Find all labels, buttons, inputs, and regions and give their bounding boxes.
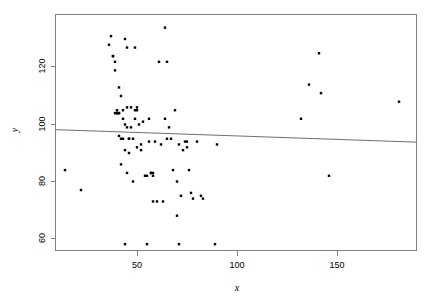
data-point (134, 118, 136, 120)
y-tick-label-100: 100 (37, 116, 47, 131)
plot-canvas: 60 80 100 120 50 100 150 x y (0, 0, 437, 300)
x-tick-label-100: 100 (229, 260, 244, 270)
data-point (156, 200, 158, 202)
data-point (320, 92, 322, 94)
data-point (146, 175, 148, 177)
data-point (140, 143, 142, 145)
data-point (186, 140, 188, 142)
data-point (164, 26, 166, 28)
data-point (174, 109, 176, 111)
data-point (186, 146, 188, 148)
data-point (318, 52, 320, 54)
data-point (124, 149, 126, 151)
data-point (136, 146, 138, 148)
y-axis-ticks (51, 67, 56, 239)
data-point (176, 215, 178, 217)
data-point (168, 126, 170, 128)
data-point (308, 83, 310, 85)
y-axis-tick-labels: 60 80 100 120 (37, 58, 47, 243)
data-point (134, 46, 136, 48)
data-point (108, 44, 110, 46)
data-point (126, 46, 128, 48)
data-point (120, 95, 122, 97)
data-point (166, 61, 168, 63)
data-point (158, 61, 160, 63)
data-point (160, 143, 162, 145)
data-point (110, 35, 112, 37)
data-point (116, 109, 118, 111)
data-point (118, 135, 120, 137)
data-point (122, 109, 124, 111)
data-point (202, 197, 204, 199)
data-point (124, 243, 126, 245)
data-point (162, 200, 164, 202)
data-point (328, 175, 330, 177)
data-point (178, 143, 180, 145)
data-point (216, 143, 218, 145)
y-tick-label-120: 120 (37, 58, 47, 73)
x-tick-label-150: 150 (329, 260, 344, 270)
data-point (80, 189, 82, 191)
data-point (128, 152, 130, 154)
data-point (196, 140, 198, 142)
data-point (300, 118, 302, 120)
data-point (64, 169, 66, 171)
x-tick-label-50: 50 (132, 260, 142, 270)
data-point (148, 118, 150, 120)
data-point (142, 120, 144, 122)
data-point (152, 175, 154, 177)
data-point (130, 106, 132, 108)
x-axis-title: x (234, 282, 240, 293)
data-point (180, 195, 182, 197)
data-point (176, 180, 178, 182)
data-point (170, 138, 172, 140)
data-point (190, 192, 192, 194)
data-point (126, 126, 128, 128)
data-point (122, 118, 124, 120)
data-point (118, 112, 120, 114)
data-point (192, 197, 194, 199)
data-point (136, 109, 138, 111)
data-point (182, 149, 184, 151)
data-point (136, 106, 138, 108)
data-point (152, 200, 154, 202)
data-point (214, 243, 216, 245)
x-axis-tick-labels: 50 100 150 (132, 260, 345, 270)
data-point (114, 69, 116, 71)
data-point (112, 55, 114, 57)
y-axis-title: y (9, 127, 20, 133)
data-point (124, 123, 126, 125)
data-point (172, 169, 174, 171)
scatter-plot-figure: 60 80 100 120 50 100 150 x y (0, 0, 437, 300)
data-point (166, 138, 168, 140)
data-point (140, 149, 142, 151)
data-point (122, 138, 124, 140)
data-point (126, 172, 128, 174)
data-point (138, 123, 140, 125)
data-point (130, 126, 132, 128)
data-point (118, 86, 120, 88)
data-point (398, 101, 400, 103)
x-axis-ticks (138, 251, 338, 256)
data-point (132, 138, 134, 140)
data-point (178, 243, 180, 245)
y-tick-label-80: 80 (37, 176, 47, 186)
data-point (124, 38, 126, 40)
data-point (128, 138, 130, 140)
regression-line (55, 130, 417, 143)
data-point (148, 140, 150, 142)
data-point (154, 140, 156, 142)
plot-frame (56, 15, 417, 251)
data-point (132, 180, 134, 182)
data-point (164, 118, 166, 120)
data-point (146, 243, 148, 245)
data-point (188, 169, 190, 171)
data-point (152, 172, 154, 174)
data-point (120, 163, 122, 165)
y-tick-label-60: 60 (37, 233, 47, 243)
data-point (126, 106, 128, 108)
data-point (200, 195, 202, 197)
data-point (114, 61, 116, 63)
